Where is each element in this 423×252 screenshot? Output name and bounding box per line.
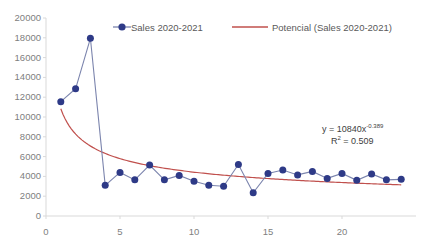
y-axis-tick-label: 10000 <box>0 111 41 122</box>
x-axis-tick-label: 10 <box>174 226 214 237</box>
y-axis-tick-label: 14000 <box>0 71 41 82</box>
data-point-marker <box>324 175 331 182</box>
data-point-marker <box>353 177 360 184</box>
data-point-marker <box>161 176 168 183</box>
x-axis-tick-label: 0 <box>26 226 66 237</box>
data-point-marker <box>176 172 183 179</box>
data-point-marker <box>250 189 257 196</box>
data-point-marker <box>57 98 64 105</box>
data-point-marker <box>279 166 286 173</box>
r-squared-label: R2 = 0.509 <box>331 135 374 146</box>
data-point-marker <box>102 182 109 189</box>
data-point-marker <box>294 171 301 178</box>
y-axis-tick-label: 12000 <box>0 91 41 102</box>
equation-base: y = 10840x <box>322 124 366 134</box>
data-point-marker <box>309 168 316 175</box>
data-point-marker <box>146 162 153 169</box>
y-axis-tick-label: 2000 <box>0 190 41 201</box>
x-axis-tick-label: 5 <box>100 226 140 237</box>
series-data-markers <box>57 35 404 196</box>
data-point-marker <box>87 35 94 42</box>
trendline-path <box>61 109 401 185</box>
y-axis-tick-label: 6000 <box>0 151 41 162</box>
legend-series-marker-icon <box>118 23 125 30</box>
axis-lines <box>46 18 416 216</box>
data-point-marker <box>117 169 124 176</box>
chart-container: 0200040006000800010000120001400016000180… <box>0 0 423 252</box>
data-point-marker <box>339 170 346 177</box>
data-point-marker <box>72 85 79 92</box>
series-line-path <box>61 38 401 192</box>
data-point-marker <box>368 170 375 177</box>
y-axis-tick-label: 4000 <box>0 170 41 181</box>
data-point-marker <box>383 176 390 183</box>
equation-exponent: -0.389 <box>366 123 383 129</box>
data-point-marker <box>398 176 405 183</box>
data-point-marker <box>265 170 272 177</box>
data-point-marker <box>205 182 212 189</box>
data-point-marker <box>191 178 198 185</box>
data-point-marker <box>220 183 227 190</box>
data-point-marker <box>235 161 242 168</box>
y-axis-tick-label: 8000 <box>0 131 41 142</box>
r2-value: = 0.509 <box>341 136 374 146</box>
trendline-equation: y = 10840x-0.389 <box>322 123 383 134</box>
y-axis-tick-label: 18000 <box>0 32 41 43</box>
legend-item-sales: Sales 2020-2021 <box>131 22 203 33</box>
y-axis-tick-label: 20000 <box>0 12 41 23</box>
data-point-marker <box>131 176 138 183</box>
y-axis-tick-label: 16000 <box>0 52 41 63</box>
legend-item-potencial: Potencial (Sales 2020-2021) <box>272 22 392 33</box>
x-axis-tick-label: 20 <box>322 226 362 237</box>
y-axis-tick-label: 0 <box>0 210 41 221</box>
x-axis-tick-label: 15 <box>248 226 288 237</box>
